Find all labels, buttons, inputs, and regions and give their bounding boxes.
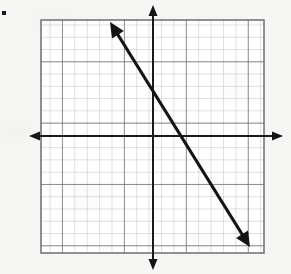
y-axis-up-arrowhead [149,5,158,16]
y-axis-down-arrowhead [149,259,158,270]
coordinate-plane-svg [0,0,291,274]
graph-figure [0,0,291,274]
x-axis-left-arrowhead [29,132,40,141]
x-axis-right-arrowhead [272,132,283,141]
corner-mark-icon [2,11,6,15]
